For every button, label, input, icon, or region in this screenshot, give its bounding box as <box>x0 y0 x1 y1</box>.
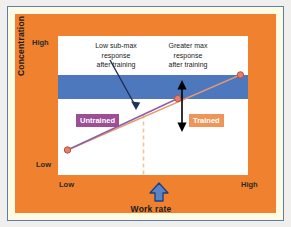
x-axis-tick-high: High <box>241 180 258 189</box>
figure-orange-panel: Concentration High Low Work rate Low Hig… <box>15 14 276 213</box>
plot-area: Low sub-max response after training Grea… <box>58 36 248 175</box>
figure-outer-frame: Concentration High Low Work rate Low Hig… <box>7 6 284 221</box>
annotation-sub-max-response: Low sub-max response after training <box>83 41 149 70</box>
figure-cream-frame: Concentration High Low Work rate Low Hig… <box>12 11 279 216</box>
x-axis-tick-low: Low <box>59 180 74 189</box>
x-axis-title: Work rate <box>111 204 191 214</box>
data-point-untrained-max <box>175 95 181 101</box>
y-axis-tick-high: High <box>32 38 49 47</box>
figure-container: Concentration High Low Work rate Low Hig… <box>0 0 291 227</box>
y-axis-tick-low: Low <box>36 160 51 169</box>
data-point-trained-max <box>237 72 243 78</box>
legend-trained: Trained <box>189 114 224 127</box>
trained-line <box>68 75 241 150</box>
double-headed-vertical-arrow-icon <box>177 80 186 132</box>
y-axis-title: Concentration <box>16 62 26 76</box>
data-point-origin <box>64 147 70 153</box>
annotation-max-response: Greater max response after training <box>157 41 219 70</box>
legend-untrained: Untrained <box>76 114 119 127</box>
up-arrow-icon <box>148 182 170 202</box>
